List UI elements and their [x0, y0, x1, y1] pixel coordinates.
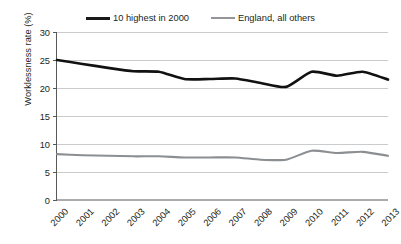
- y-tick-label-25: 25: [40, 56, 50, 66]
- x-tick-label-2008: 2008: [252, 206, 274, 228]
- x-tick-label-2006: 2006: [201, 206, 223, 228]
- series-line-england-all-others: [57, 151, 388, 161]
- x-tick-label-2012: 2012: [354, 206, 376, 228]
- y-axis-ticks-group: 051015202530: [40, 28, 57, 206]
- series-group: [57, 60, 388, 160]
- x-tick-label-2013: 2013: [380, 206, 401, 228]
- series-line-10-highest-in-2000: [57, 60, 388, 87]
- plot-area: 051015202530 200020012002200320042005200…: [0, 0, 401, 244]
- x-axis-ticks-group: 2000200120022003200420052006200720082009…: [49, 206, 401, 228]
- y-tick-label-0: 0: [45, 196, 50, 206]
- worklessness-rate-line-chart: 10 highest in 2000 England, all others W…: [0, 0, 401, 244]
- x-tick-label-2001: 2001: [74, 206, 96, 228]
- y-tick-label-30: 30: [40, 28, 50, 38]
- y-tick-label-10: 10: [40, 140, 50, 150]
- x-tick-label-2003: 2003: [125, 206, 147, 228]
- x-tick-label-2009: 2009: [278, 206, 300, 228]
- x-tick-label-2004: 2004: [151, 206, 173, 228]
- x-tick-label-2011: 2011: [329, 206, 350, 227]
- x-tick-label-2005: 2005: [176, 206, 198, 228]
- y-tick-label-20: 20: [40, 84, 50, 94]
- x-tick-label-2002: 2002: [100, 206, 122, 228]
- y-tick-label-5: 5: [45, 168, 50, 178]
- y-tick-label-15: 15: [40, 112, 50, 122]
- x-tick-label-2007: 2007: [227, 206, 249, 228]
- x-tick-label-2000: 2000: [49, 206, 71, 228]
- gridlines-group: [57, 33, 388, 173]
- x-tick-label-2010: 2010: [303, 206, 325, 228]
